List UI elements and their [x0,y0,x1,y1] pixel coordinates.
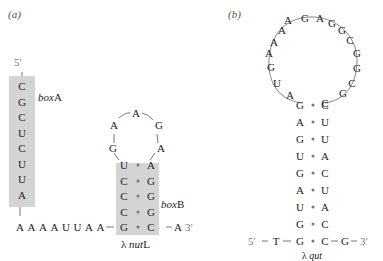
linker-nt: A [95,221,107,233]
loop-b-nt: A [263,47,275,59]
base-pair-dot [312,138,315,141]
linker-nt: U [72,221,84,233]
stem-a-right-nt: G [145,206,157,218]
tail-nt: A [172,221,184,233]
base-pair-dot [137,179,140,182]
base-pair-dot [312,189,315,192]
boxA-nt: A [16,189,28,201]
loop-b-nt: G [351,62,363,74]
stem-b-left-nt: G [294,133,306,145]
loop-b-nt: G [351,47,363,59]
stem-a-right-nt: C [145,221,157,233]
stem-b-right-nt: A [319,201,331,213]
stem-b-left-nt: A [294,184,306,196]
linker-nt: U [60,221,72,233]
loop-b-nt: U [271,77,283,89]
three-prime-label-b: 3′ [360,235,368,247]
loop-b-nt: C [344,34,356,46]
stem-a-right-nt: G [145,175,157,187]
linker-nt: A [49,221,61,233]
stem-a-right-nt: A [145,159,157,171]
stem-a-left-nt: C [118,206,130,218]
boxA-nt: C [16,142,28,154]
linker-nt: A [83,221,95,233]
base-pair-dot [312,206,315,209]
loop-a-nt: G [107,142,119,154]
stem-b-right-nt: C [319,235,331,247]
boxA-nt: U [16,158,28,170]
loop-b-nt: G [337,87,349,99]
stem-b-left-nt: G [294,167,306,179]
base-pair-dot [137,226,140,229]
base-pair-dot [312,121,315,124]
base-pair-dot [312,155,315,158]
nutL-name: λ nutL [121,238,150,250]
stem-b-right-nt: A [319,150,331,162]
stem-b-right-nt: U [319,133,331,145]
loop-a-nt: A [130,107,142,119]
linker-nt: A [26,221,38,233]
loop-a-nt: A [155,142,167,154]
stem-b-left-nt: U [294,150,306,162]
loop-a-nt: G [153,119,165,131]
loop-b-nt: G [265,61,277,73]
loop-b-nt: A [314,12,326,24]
loop-b-nt: G [299,12,311,24]
loop-b-nt: A [268,36,280,48]
stem-a-left-nt: G [118,221,130,233]
stem-a-left-nt: C [118,190,130,202]
stem-b-left-nt: G [294,235,306,247]
boxA-nt: U [16,173,28,185]
stem-b-left-nt: U [294,201,306,213]
stem-b-right-nt: C [319,167,331,179]
stem-b-right-nt: C [319,99,331,111]
boxA-nt: C [16,111,28,123]
boxA-nt: G [16,96,28,108]
base-pair-dot [137,195,140,198]
three-prime-label-a: 3′ [185,221,193,233]
linker-nt: A [14,221,26,233]
stem-b-left-nt: G [294,99,306,111]
stem-b-right-nt: C [319,218,331,230]
base-pair-dot [312,223,315,226]
five-prime-label-b: 5′ [248,235,256,247]
base-pair-dot [137,210,140,213]
left-flank-nt: T [270,235,282,247]
stem-a-right-nt: G [145,190,157,202]
loop-a-nt: A [108,119,120,131]
five-prime-label-a: 5′ [14,56,22,68]
linker-nt: A [37,221,49,233]
boxA-nt: U [16,127,28,139]
stem-b-right-nt: U [319,116,331,128]
boxA-nt: C [16,80,28,92]
right-flank-nt: G [339,235,351,247]
base-pair-dot [137,164,140,167]
loop-b-nt: A [282,14,294,26]
panel-b-label: (b) [228,8,241,20]
base-pair-dot [312,104,315,107]
stem-a-left-nt: U [118,159,130,171]
boxB-label: boxB [161,198,184,210]
stem-b-left-nt: G [294,218,306,230]
stem-b-right-nt: U [319,184,331,196]
base-pair-dot [312,172,315,175]
stem-b-left-nt: A [294,116,306,128]
qut-name: λ qut [302,250,322,261]
stem-a-left-nt: C [118,175,130,187]
base-pair-dot [312,240,315,243]
panel-a-label: (a) [8,8,21,20]
boxA-label: boxA [38,91,62,103]
